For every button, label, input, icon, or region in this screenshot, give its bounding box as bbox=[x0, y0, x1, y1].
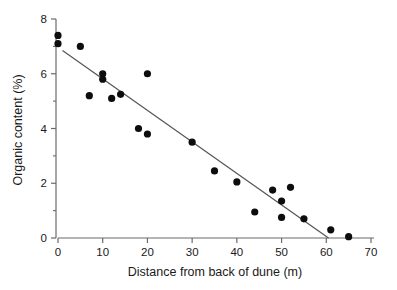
x-tick-label: 0 bbox=[55, 246, 61, 258]
data-point bbox=[108, 95, 115, 102]
data-point bbox=[211, 167, 218, 174]
data-point bbox=[233, 178, 240, 185]
x-tick-label: 50 bbox=[275, 246, 288, 258]
data-point bbox=[86, 92, 93, 99]
data-point bbox=[269, 186, 276, 193]
y-axis-title: Organic content (%) bbox=[11, 74, 25, 185]
y-tick-label: 6 bbox=[41, 68, 47, 80]
data-point bbox=[99, 76, 106, 83]
x-tick-label: 60 bbox=[320, 246, 333, 258]
x-axis-title: Distance from back of dune (m) bbox=[128, 265, 302, 279]
y-tick-label: 4 bbox=[41, 123, 48, 135]
data-point bbox=[278, 214, 285, 221]
x-tick-label: 30 bbox=[186, 246, 199, 258]
x-tick-label: 10 bbox=[96, 246, 109, 258]
scatter-plot: Organic content (%) Distance from back o… bbox=[0, 0, 397, 290]
chart-figure: Organic content (%) Distance from back o… bbox=[0, 0, 397, 290]
data-point bbox=[287, 184, 294, 191]
data-point bbox=[54, 40, 61, 47]
data-point bbox=[135, 125, 142, 132]
data-point bbox=[117, 91, 124, 98]
data-point bbox=[300, 215, 307, 222]
data-point bbox=[144, 130, 151, 137]
data-point bbox=[345, 233, 352, 240]
x-tick-label: 40 bbox=[230, 246, 243, 258]
data-point bbox=[251, 208, 258, 215]
y-tick-label: 2 bbox=[41, 177, 47, 189]
data-point bbox=[54, 32, 61, 39]
data-points-group bbox=[54, 32, 352, 240]
axes-group bbox=[56, 19, 374, 238]
y-tick-label: 8 bbox=[41, 13, 47, 25]
x-tick-group: 010203040506070 bbox=[55, 238, 378, 258]
x-tick-label: 70 bbox=[365, 246, 378, 258]
y-tick-label: 0 bbox=[41, 232, 47, 244]
data-point bbox=[189, 139, 196, 146]
y-tick-group: 02468 bbox=[41, 13, 56, 244]
data-point bbox=[144, 70, 151, 77]
data-point bbox=[278, 197, 285, 204]
x-tick-label: 20 bbox=[141, 246, 154, 258]
data-point bbox=[77, 43, 84, 50]
data-point bbox=[327, 226, 334, 233]
